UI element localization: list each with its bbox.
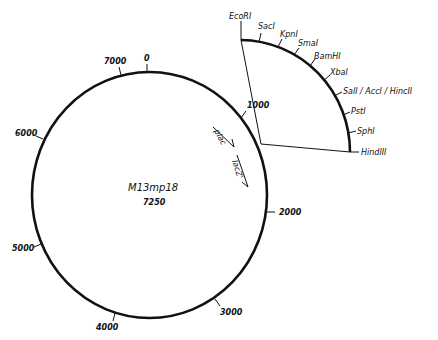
tick-7000 xyxy=(119,67,121,75)
site-sali-acci-hincii: SalI / AccI / HincII xyxy=(343,87,413,96)
polylinker-labels: EcoRI SacI KpnI SmaI BamHI XbaI SalI / A… xyxy=(229,12,413,157)
site-smai: SmaI xyxy=(298,39,319,48)
tick-5000 xyxy=(34,244,41,247)
site-ecori: EcoRI xyxy=(229,12,252,21)
tick-label-0: 0 xyxy=(144,54,150,63)
wedge-right-line xyxy=(261,144,350,152)
tick-label-3000: 3000 xyxy=(220,308,243,317)
site-xbai: XbaI xyxy=(329,68,348,77)
scale-labels: 0 1000 2000 3000 4000 5000 6000 7000 xyxy=(12,54,302,332)
tick-smai xyxy=(294,48,299,55)
tick-label-4000: 4000 xyxy=(95,323,119,332)
plasmid-map: 0 1000 2000 3000 4000 5000 6000 7000 M13… xyxy=(0,0,438,340)
site-psti: PstI xyxy=(351,107,366,116)
site-sphi: SphI xyxy=(357,127,375,136)
plasmid-name: M13mp18 xyxy=(128,182,178,193)
plasmid-backbone xyxy=(32,72,267,318)
tick-label-2000: 2000 xyxy=(279,208,302,217)
tick-3000 xyxy=(215,299,220,306)
lacz-label: lacZ' xyxy=(230,159,244,180)
tick-label-5000: 5000 xyxy=(12,244,35,253)
site-bamhi: BamHI xyxy=(314,52,341,61)
site-kpni: KpnI xyxy=(280,30,298,39)
site-saci: SacI xyxy=(258,22,275,31)
plac-label: plac xyxy=(212,127,228,147)
tick-4000 xyxy=(113,313,115,321)
tick-label-7000: 7000 xyxy=(104,57,127,66)
tick-label-6000: 6000 xyxy=(15,129,38,138)
site-hindiii: HindIII xyxy=(361,148,387,157)
tick-1000 xyxy=(241,111,246,118)
tick-label-1000: 1000 xyxy=(247,101,270,110)
wedge-left-line xyxy=(241,40,261,144)
plasmid-size: 7250 xyxy=(143,198,166,207)
tick-kpni xyxy=(278,39,282,47)
